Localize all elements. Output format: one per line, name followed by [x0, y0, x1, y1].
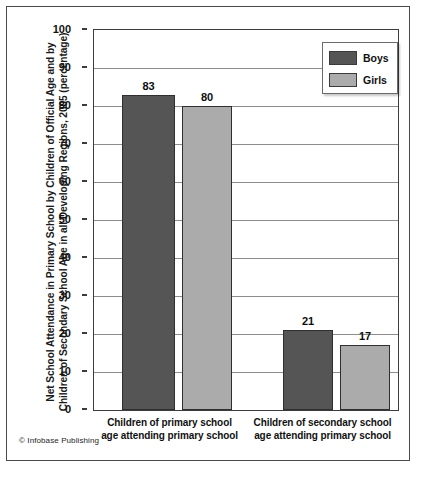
legend-label-boys: Boys — [363, 53, 389, 64]
chart-legend: Boys Girls — [322, 42, 398, 94]
x-axis-category-0: Children of primary school age attending… — [93, 417, 246, 442]
y-axis-tick-mark — [82, 28, 87, 29]
bar-boys-group-0 — [122, 95, 175, 410]
bar-girls-group-1 — [340, 345, 390, 410]
y-axis-tick-label: 80 — [37, 100, 71, 111]
x-axis-category-0-line-2: age attending primary school — [93, 430, 246, 443]
x-axis-category-1: Children of secondary school age attendi… — [246, 417, 399, 442]
plot-area: 83802117 Boys Girls — [93, 29, 399, 411]
y-axis-tick-label: 30 — [37, 290, 71, 301]
legend-swatch-girls-icon — [329, 73, 357, 87]
legend-entry-girls: Girls — [329, 70, 397, 90]
y-axis-tick-label: 20 — [37, 328, 71, 339]
bar-value-label: 17 — [340, 331, 390, 342]
y-axis-tick-mark — [82, 256, 87, 257]
x-axis-category-1-line-1: Children of secondary school — [246, 417, 399, 430]
bar-value-label: 21 — [283, 316, 333, 327]
y-axis-tick-label: 10 — [37, 366, 71, 377]
legend-label-girls: Girls — [363, 75, 387, 86]
y-axis-tick-mark — [82, 142, 87, 143]
bar-girls-group-0 — [182, 106, 232, 410]
y-axis-tick-mark — [82, 370, 87, 371]
bar-value-label: 80 — [182, 92, 232, 103]
y-axis-tick-label: 50 — [37, 214, 71, 225]
y-axis-tick-label: 100 — [37, 24, 71, 35]
x-axis-category-0-line-1: Children of primary school — [93, 417, 246, 430]
y-axis-tick-mark — [82, 332, 87, 333]
y-axis-tick-mark — [82, 66, 87, 67]
legend-entry-boys: Boys — [329, 48, 397, 68]
y-axis-tick-mark — [82, 294, 87, 295]
y-axis-tick-label: 40 — [37, 252, 71, 263]
y-axis-tick-mark — [82, 218, 87, 219]
y-axis-tick-mark — [82, 408, 87, 409]
y-axis-tick-label: 90 — [37, 62, 71, 73]
legend-swatch-boys-icon — [329, 51, 357, 65]
credit-line: © Infobase Publishing — [19, 436, 99, 445]
y-axis-tick-label: 60 — [37, 176, 71, 187]
figure-frame: Net School Attendance in Primary School … — [6, 6, 410, 461]
x-axis-category-1-line-2: age attending primary school — [246, 430, 399, 443]
y-axis-tick-mark — [82, 104, 87, 105]
y-axis-tick-label: 0 — [37, 404, 71, 415]
bar-value-label: 83 — [122, 81, 175, 92]
y-axis-tick-label: 70 — [37, 138, 71, 149]
bar-boys-group-1 — [283, 330, 333, 410]
y-axis-tick-mark — [82, 180, 87, 181]
